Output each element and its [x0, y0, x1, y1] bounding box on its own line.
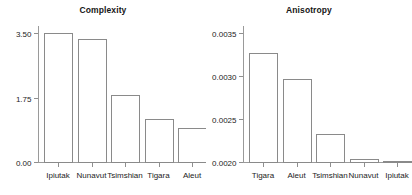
- chart-panel-anisotropy: Anisotropy 0.00200.00250.00300.0035Tigar…: [206, 0, 412, 195]
- y-axis-tick-label: 1.75: [16, 95, 32, 104]
- x-axis-category-label: Ipiutak: [46, 171, 71, 180]
- bar: [79, 40, 107, 163]
- x-axis-category-label: Ipiutak: [385, 171, 410, 180]
- x-axis-category-label: Nunavut: [349, 171, 380, 180]
- bar: [284, 80, 312, 163]
- bar: [250, 54, 278, 163]
- x-axis-category-label: Tigara: [252, 171, 275, 180]
- x-axis-category-label: Tigara: [147, 171, 170, 180]
- x-axis-category-label: Tsimshian: [107, 171, 143, 180]
- y-axis-tick-label: 0.0020: [212, 159, 237, 168]
- x-axis-category-label: Aleut: [183, 171, 202, 180]
- y-axis-tick-label: 0.0025: [212, 116, 237, 125]
- plot-area-complexity: 0.001.753.50IpiutakNunavutTsimshianTigar…: [0, 0, 206, 195]
- y-axis-tick-label: 3.50: [16, 30, 32, 39]
- bar: [146, 120, 174, 163]
- bar: [384, 162, 412, 163]
- figure-two-panel-bar-charts: Complexity 0.001.753.50IpiutakNunavutTsi…: [0, 0, 412, 195]
- bar: [351, 160, 379, 163]
- x-axis-category-label: Aleut: [287, 171, 306, 180]
- y-axis-tick-label: 0.0035: [212, 30, 237, 39]
- bar: [112, 96, 140, 163]
- y-axis-tick-label: 0.0030: [212, 73, 237, 82]
- x-axis-category-label: Tsimshian: [312, 171, 348, 180]
- chart-panel-complexity: Complexity 0.001.753.50IpiutakNunavutTsi…: [0, 0, 206, 195]
- x-axis-category-label: Nunavut: [77, 171, 108, 180]
- bar: [179, 129, 207, 163]
- bar: [45, 34, 73, 163]
- plot-area-anisotropy: 0.00200.00250.00300.0035TigaraAleutTsims…: [206, 0, 412, 195]
- y-axis-tick-label: 0.00: [16, 159, 32, 168]
- bar: [317, 135, 345, 163]
